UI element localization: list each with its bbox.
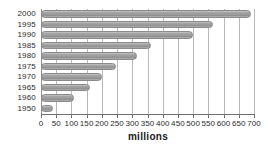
x-tick-mark bbox=[41, 114, 42, 118]
bar-1950 bbox=[41, 105, 53, 113]
bar-row bbox=[41, 51, 254, 61]
bar-2000 bbox=[41, 10, 251, 18]
bar-1970 bbox=[41, 73, 102, 81]
x-tick-mark bbox=[87, 114, 88, 118]
x-tick-mark bbox=[117, 114, 118, 118]
x-tick-label-250: 250 bbox=[110, 119, 124, 128]
y-tick-label-1975: 1975 bbox=[17, 62, 36, 72]
x-tick-label-600: 600 bbox=[217, 119, 231, 128]
x-tick-mark bbox=[239, 114, 240, 118]
x-tick-label-200: 200 bbox=[95, 119, 109, 128]
bar-1965 bbox=[41, 84, 90, 92]
x-tick-label-100: 100 bbox=[65, 119, 79, 128]
y-tick-label-2000: 2000 bbox=[17, 9, 36, 19]
x-tick-mark bbox=[132, 114, 133, 118]
x-tick-label-450: 450 bbox=[171, 119, 185, 128]
bar-row bbox=[41, 83, 254, 93]
y-tick-label-1960: 1960 bbox=[17, 93, 36, 103]
x-tick-label-550: 550 bbox=[202, 119, 216, 128]
bar-row bbox=[41, 104, 254, 114]
x-tick-mark bbox=[163, 114, 164, 118]
bar-chart: 2000199519901985198019751970196519601950… bbox=[0, 0, 268, 150]
y-tick-label-1985: 1985 bbox=[17, 41, 36, 51]
bar-1995 bbox=[41, 21, 213, 29]
y-tick-label-1995: 1995 bbox=[17, 20, 36, 30]
x-tick-mark bbox=[193, 114, 194, 118]
bar-row bbox=[41, 41, 254, 51]
x-axis-tick-labels: 0501001502002503003504004505005506006507… bbox=[0, 119, 268, 131]
x-tick-mark bbox=[178, 114, 179, 118]
bar-1960 bbox=[41, 94, 74, 102]
y-tick-label-1970: 1970 bbox=[17, 72, 36, 82]
bar-1990 bbox=[41, 31, 193, 39]
y-tick-label-1990: 1990 bbox=[17, 30, 36, 40]
x-tick-mark bbox=[71, 114, 72, 118]
x-tick-label-350: 350 bbox=[141, 119, 155, 128]
x-tick-label-400: 400 bbox=[156, 119, 170, 128]
y-tick-label-1950: 1950 bbox=[17, 104, 36, 114]
bar-row bbox=[41, 72, 254, 82]
x-axis-title: millions bbox=[41, 131, 255, 142]
x-tick-label-500: 500 bbox=[186, 119, 200, 128]
x-tick-mark bbox=[102, 114, 103, 118]
x-tick-label-300: 300 bbox=[125, 119, 139, 128]
x-tick-label-150: 150 bbox=[80, 119, 94, 128]
bar-row bbox=[41, 9, 254, 19]
x-tick-label-0: 0 bbox=[39, 119, 44, 128]
x-tick-label-700: 700 bbox=[247, 119, 261, 128]
bar-row bbox=[41, 20, 254, 30]
bar-1985 bbox=[41, 42, 151, 50]
gridline bbox=[254, 9, 255, 114]
bar-row bbox=[41, 30, 254, 40]
x-tick-mark bbox=[254, 114, 255, 118]
x-tick-mark bbox=[148, 114, 149, 118]
plot-area bbox=[41, 9, 254, 114]
bar-1975 bbox=[41, 63, 116, 71]
x-tick-label-650: 650 bbox=[232, 119, 246, 128]
x-tick-mark bbox=[208, 114, 209, 118]
x-tick-mark bbox=[56, 114, 57, 118]
y-tick-label-1980: 1980 bbox=[17, 51, 36, 61]
y-axis-category-labels: 2000199519901985198019751970196519601950 bbox=[0, 9, 39, 114]
y-tick-label-1965: 1965 bbox=[17, 83, 36, 93]
x-tick-mark bbox=[224, 114, 225, 118]
bar-1980 bbox=[41, 52, 137, 60]
x-tick-label-50: 50 bbox=[52, 119, 61, 128]
bar-row bbox=[41, 93, 254, 103]
bar-row bbox=[41, 62, 254, 72]
